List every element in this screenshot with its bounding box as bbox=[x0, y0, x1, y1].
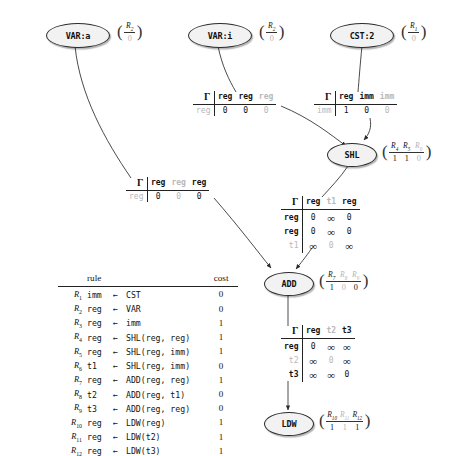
paren-close: ) bbox=[137, 23, 143, 40]
table-row: reg0∞0 bbox=[281, 225, 360, 239]
edge-var-a-table-to-add bbox=[214, 198, 271, 268]
edge-cst-table-to-shl bbox=[364, 118, 371, 140]
rule-expression: reg←SHL(reg, reg) bbox=[87, 331, 204, 345]
node-cst-2[interactable]: CST:2 bbox=[330, 23, 394, 48]
rule-expression: reg←VAR bbox=[87, 302, 204, 316]
row-header-2: t3 bbox=[281, 368, 302, 382]
rule-id: R6 bbox=[58, 359, 87, 373]
row-header-1: t2 bbox=[281, 354, 302, 368]
rvec-num-0: R4 bbox=[390, 141, 399, 152]
node-shl[interactable]: SHL bbox=[327, 143, 377, 167]
rvec-ldw: ( R10 R11 R12 1 1 1 ) bbox=[319, 410, 370, 432]
paren-open: ( bbox=[259, 23, 265, 40]
cell-1-0: 0 bbox=[302, 225, 323, 239]
rule-expression: imm←CST bbox=[87, 287, 204, 303]
rvec-num-0: R10 bbox=[327, 410, 337, 421]
rule-id: R7 bbox=[58, 374, 87, 388]
rule-row: R8t2←ADD(reg, t1)0 bbox=[58, 388, 238, 402]
rule-expression: t3←ADD(reg, reg) bbox=[87, 402, 204, 416]
node-ldw[interactable]: LDW bbox=[264, 412, 314, 436]
rvec-num-1: R5 bbox=[402, 141, 411, 152]
rule-row: R9t3←ADD(reg, reg)0 bbox=[58, 402, 238, 416]
rvec-den-2: 0 bbox=[414, 154, 423, 163]
col-header-1: t1 bbox=[323, 196, 339, 210]
col-header-1: t2 bbox=[323, 325, 339, 339]
col-header-0: reg bbox=[302, 196, 323, 210]
rule-row: R11reg←LDW(t2)1 bbox=[58, 431, 238, 445]
cell-0-2: 0 bbox=[377, 105, 397, 116]
cell-2-0: ∞ bbox=[302, 239, 323, 253]
node-add[interactable]: ADD bbox=[264, 272, 314, 296]
rules-header-blank bbox=[58, 272, 87, 287]
cell-2-1: 0 bbox=[323, 239, 339, 253]
node-label: VAR:i bbox=[208, 31, 233, 41]
rvec-num-2: R6 bbox=[414, 141, 423, 152]
rvec-num-0: R1 bbox=[409, 21, 418, 32]
cell-0-0: 0 bbox=[302, 339, 323, 354]
cell-0-2: 0 bbox=[339, 210, 359, 225]
row-header-0: reg bbox=[281, 210, 302, 225]
cell-0-1: 0 bbox=[235, 105, 255, 116]
col-header-1: reg bbox=[235, 91, 255, 105]
rvec-den-0: 0 bbox=[409, 34, 418, 43]
rule-row: R3reg←imm1 bbox=[58, 317, 238, 331]
cell-1-0: ∞ bbox=[302, 354, 323, 368]
rvec-cst-2: ( R1 0 ) bbox=[401, 21, 426, 43]
row-header-0: reg bbox=[281, 339, 302, 354]
table-row: reg0∞∞ bbox=[281, 339, 355, 354]
rule-expression: reg←SHL(reg, imm) bbox=[87, 345, 204, 359]
paren-close: ) bbox=[426, 143, 432, 160]
edge-cst-2-to-table bbox=[358, 46, 362, 92]
rule-id: R12 bbox=[58, 445, 87, 456]
paren-open: ( bbox=[319, 412, 325, 429]
cell-1-2: 0 bbox=[339, 225, 359, 239]
rvec-var-i: ( R2 0 ) bbox=[259, 21, 284, 43]
rule-row: R7reg←ADD(reg, reg)1 bbox=[58, 374, 238, 388]
table-row: t3∞∞0 bbox=[281, 368, 355, 382]
table-row: reg000 bbox=[126, 191, 209, 202]
node-label: LDW bbox=[282, 419, 297, 429]
table-row: reg000 bbox=[193, 105, 276, 116]
cell-0-2: 0 bbox=[189, 191, 209, 202]
rule-id: R11 bbox=[58, 431, 87, 445]
rule-cost: 1 bbox=[204, 416, 238, 430]
rvec-den-0: 0 bbox=[267, 34, 276, 43]
cell-0-0: 1 bbox=[335, 105, 356, 116]
cell-1-1: ∞ bbox=[323, 225, 339, 239]
gamma-corner: Γ bbox=[281, 325, 302, 339]
rvec-num-0: R2 bbox=[267, 21, 276, 32]
node-var-a[interactable]: VAR:a bbox=[46, 23, 110, 48]
node-label: VAR:a bbox=[66, 31, 91, 41]
rule-id: R8 bbox=[58, 388, 87, 402]
paren-open: ( bbox=[319, 272, 325, 289]
cost-table-cst-2: Γregimmimmimm100 bbox=[314, 91, 397, 116]
cost-table-var-a: Γregregregreg000 bbox=[126, 177, 209, 202]
rule-id: R3 bbox=[58, 317, 87, 331]
rule-row: R1imm←CST0 bbox=[58, 287, 238, 303]
rule-cost: 1 bbox=[204, 374, 238, 388]
rvec-num-2: R9 bbox=[351, 270, 360, 281]
rvec-num-2: R12 bbox=[352, 410, 362, 421]
paren-close: ) bbox=[421, 23, 427, 40]
rule-expression: reg←ADD(reg, reg) bbox=[87, 374, 204, 388]
paren-open: ( bbox=[401, 23, 407, 40]
col-header-2: reg bbox=[256, 91, 276, 105]
rule-id: R9 bbox=[58, 402, 87, 416]
col-header-2: reg bbox=[339, 196, 359, 210]
rule-cost: 0 bbox=[204, 287, 238, 303]
row-header-0: reg bbox=[126, 191, 147, 202]
rvec-num-1: R11 bbox=[340, 410, 349, 421]
table-row: t1∞0∞ bbox=[281, 239, 360, 253]
paren-close: ) bbox=[279, 23, 285, 40]
node-var-i[interactable]: VAR:i bbox=[188, 23, 252, 48]
rule-expression: t2←ADD(reg, t1) bbox=[87, 388, 204, 402]
edge-var-a-to-table bbox=[75, 46, 131, 178]
cell-0-0: 0 bbox=[302, 210, 323, 225]
rvec-den-0: 1 bbox=[327, 283, 336, 292]
cell-0-2: 0 bbox=[256, 105, 276, 116]
rule-cost: 1 bbox=[204, 431, 238, 445]
table-row: imm100 bbox=[314, 105, 397, 116]
rule-cost: 0 bbox=[204, 388, 238, 402]
rvec-num-0: R2 bbox=[125, 21, 134, 32]
paren-open: ( bbox=[382, 143, 388, 160]
